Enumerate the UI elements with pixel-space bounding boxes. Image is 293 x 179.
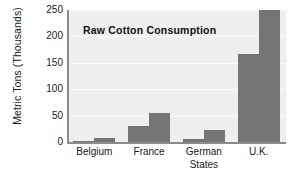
x-axis-line — [67, 142, 286, 144]
y-axis-tick-label: 250 — [30, 5, 63, 15]
y-axis-title: Metric Tons (Thousands) — [11, 0, 23, 141]
y-axis-tick-label: 100 — [30, 84, 63, 94]
x-axis-tick-labels: BelgiumFranceGerman StatesU.K. — [67, 146, 286, 179]
x-axis-tick-label: France — [134, 146, 165, 159]
plot-area: Raw Cotton Consumption — [67, 10, 286, 142]
x-axis-tick-label: German States — [186, 146, 222, 171]
y-axis-tick-label: 50 — [30, 111, 63, 121]
y-axis-line — [67, 10, 69, 142]
x-axis-tick-label: U.K. — [249, 146, 268, 159]
chart-title: Raw Cotton Consumption — [83, 24, 216, 36]
bar-chart: Metric Tons (Thousands) 050100150200250 … — [0, 0, 293, 179]
bar — [259, 10, 280, 142]
plot-frame: Raw Cotton Consumption — [67, 10, 286, 142]
bar — [204, 130, 225, 142]
bar — [238, 54, 259, 142]
bar — [128, 126, 149, 142]
y-axis-tick-label: 150 — [30, 58, 63, 68]
bar — [149, 113, 170, 142]
x-axis-tick-label: Belgium — [76, 146, 112, 159]
y-axis-tick-label: 200 — [30, 31, 63, 41]
y-axis-tick-labels: 050100150200250 — [30, 10, 63, 142]
y-axis-tick-label: 0 — [30, 137, 63, 147]
